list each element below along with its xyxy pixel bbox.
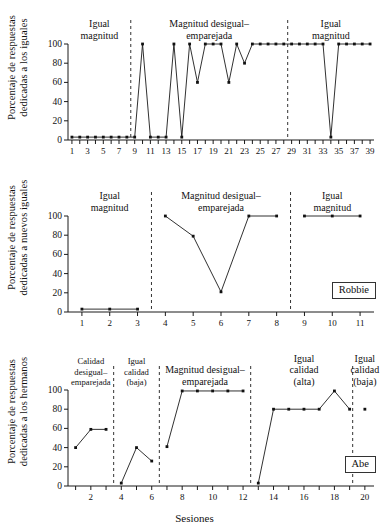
y-tick-label: 60 bbox=[38, 249, 62, 259]
data-point bbox=[212, 43, 215, 46]
data-point bbox=[322, 43, 325, 46]
data-point bbox=[275, 215, 278, 218]
data-point bbox=[164, 215, 167, 218]
data-point bbox=[149, 136, 152, 139]
data-point bbox=[89, 428, 92, 431]
data-point bbox=[235, 43, 238, 46]
y-tick-label: 40 bbox=[38, 443, 62, 453]
phase-label: Igual calidad (baja) bbox=[350, 353, 379, 388]
data-point bbox=[102, 136, 105, 139]
y-tick-label: 40 bbox=[38, 269, 62, 279]
data-point bbox=[74, 446, 77, 449]
data-point bbox=[303, 215, 306, 218]
data-point bbox=[329, 136, 332, 139]
plot-area-bottom bbox=[68, 390, 374, 486]
plot-area-middle bbox=[68, 216, 374, 312]
data-point bbox=[337, 43, 340, 46]
x-tick-label: 2 bbox=[101, 318, 119, 328]
data-point bbox=[303, 408, 306, 411]
data-point bbox=[120, 482, 123, 485]
data-point bbox=[257, 482, 260, 485]
x-tick-label: 4 bbox=[156, 318, 174, 328]
data-point bbox=[211, 390, 214, 393]
x-tick-label: 5 bbox=[184, 318, 202, 328]
data-point bbox=[298, 43, 301, 46]
y-tick-label: 60 bbox=[38, 423, 62, 433]
data-point bbox=[306, 43, 309, 46]
y-tick-label: 80 bbox=[38, 58, 62, 68]
data-point bbox=[345, 43, 348, 46]
panel-top: Porcentaje de respuestas dedicadas a los… bbox=[0, 0, 389, 172]
data-point bbox=[86, 136, 89, 139]
data-point bbox=[247, 215, 250, 218]
phase-label: Magnitud desigual– emparejada bbox=[181, 190, 261, 213]
y-tick-label: 20 bbox=[38, 462, 62, 472]
subject-label-abe: Abe bbox=[345, 456, 377, 473]
x-tick-label: 12 bbox=[234, 492, 252, 502]
panel-middle: Porcentaje de respuestas dedicadas a nue… bbox=[0, 172, 389, 344]
y-tick-label: 80 bbox=[38, 404, 62, 414]
y-tick-label: 100 bbox=[38, 211, 62, 221]
y-tick-label: 0 bbox=[38, 481, 62, 491]
y-tick-label: 60 bbox=[38, 77, 62, 87]
x-tick-label: 14 bbox=[265, 492, 283, 502]
data-point bbox=[204, 43, 207, 46]
data-point bbox=[243, 62, 246, 65]
x-tick-label: 8 bbox=[173, 492, 191, 502]
phase-label: Igual magnitud bbox=[80, 18, 118, 41]
data-line bbox=[167, 391, 243, 447]
y-tick-label: 100 bbox=[38, 39, 62, 49]
phase-label: Igual magnitud bbox=[91, 190, 129, 213]
data-point bbox=[331, 215, 334, 218]
phase-label: Magnitud desigual– emparejada bbox=[169, 18, 249, 41]
data-point bbox=[353, 43, 356, 46]
data-point bbox=[259, 43, 262, 46]
y-tick-label: 40 bbox=[38, 97, 62, 107]
x-tick-label: 18 bbox=[325, 492, 343, 502]
subject-label-robbie: Robbie bbox=[332, 282, 376, 299]
data-point bbox=[94, 136, 97, 139]
phase-label: Calidad desigual– emparejada bbox=[71, 356, 111, 387]
data-point bbox=[110, 136, 113, 139]
x-axis-title: Sesiones bbox=[0, 512, 389, 524]
data-point bbox=[196, 81, 199, 84]
x-tick-label: 20 bbox=[356, 492, 374, 502]
data-point bbox=[318, 408, 321, 411]
x-tick-label: 1 bbox=[73, 318, 91, 328]
data-point bbox=[118, 136, 121, 139]
panel-bottom: Porcentaje de respuestas dedicadas a los… bbox=[0, 344, 389, 527]
figure-multi-panel-line-charts: Porcentaje de respuestas dedicadas a los… bbox=[0, 0, 389, 527]
x-tick-label: 11 bbox=[351, 318, 369, 328]
data-point bbox=[196, 390, 199, 393]
y-tick-label: 0 bbox=[38, 307, 62, 317]
phase-label: Igual magnitud bbox=[313, 190, 351, 213]
x-tick-label: 3 bbox=[129, 318, 147, 328]
data-point bbox=[166, 445, 169, 448]
data-point bbox=[192, 235, 195, 238]
data-point bbox=[369, 43, 372, 46]
data-point bbox=[287, 408, 290, 411]
chart-svg bbox=[68, 390, 380, 527]
y-tick-label: 20 bbox=[38, 288, 62, 298]
data-point bbox=[173, 43, 176, 46]
y-axis-title-top: Porcentaje de respuestas dedicadas a los… bbox=[6, 0, 29, 138]
data-line bbox=[72, 44, 370, 137]
data-point bbox=[242, 390, 245, 393]
data-point bbox=[105, 428, 108, 431]
data-point bbox=[272, 408, 275, 411]
data-point bbox=[165, 136, 168, 139]
x-tick-label: 16 bbox=[295, 492, 313, 502]
data-point bbox=[188, 43, 191, 46]
data-point bbox=[220, 43, 223, 46]
data-point bbox=[136, 308, 139, 311]
x-tick-label: 6 bbox=[143, 492, 161, 502]
x-tick-label: 4 bbox=[112, 492, 130, 502]
data-point bbox=[125, 136, 128, 139]
data-line bbox=[165, 216, 276, 292]
data-point bbox=[251, 43, 254, 46]
phase-label: Magnitud desigual– emparejada bbox=[165, 364, 245, 387]
data-line bbox=[121, 448, 151, 484]
y-tick-label: 0 bbox=[38, 135, 62, 145]
data-point bbox=[361, 43, 364, 46]
data-point bbox=[363, 408, 366, 411]
